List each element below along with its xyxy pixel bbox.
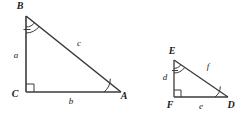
- angle-arc-b-inner: [26, 23, 35, 27]
- side-label-a: a: [14, 50, 19, 60]
- right-angle-marker-f: [174, 90, 181, 97]
- vertex-label-f: F: [166, 99, 174, 110]
- segment-ba: [26, 16, 121, 92]
- vertex-label-e: E: [168, 45, 176, 56]
- vertex-label-c: C: [12, 88, 19, 99]
- vertex-label-d: D: [226, 99, 234, 110]
- side-label-f: f: [207, 61, 211, 71]
- side-label-e: e: [199, 101, 203, 111]
- geometry-figure: B C A a b c E F: [0, 0, 243, 118]
- geometry-canvas: B C A a b c E F: [0, 0, 243, 118]
- right-angle-marker-c: [26, 84, 34, 92]
- side-label-b: b: [69, 96, 74, 106]
- angle-arc-e-inner: [174, 65, 181, 69]
- side-label-c: c: [77, 38, 81, 48]
- side-label-d: d: [163, 72, 168, 82]
- triangle-abc: B C A a b c: [12, 0, 128, 106]
- vertex-label-b: B: [16, 0, 24, 11]
- vertex-label-a: A: [120, 90, 128, 101]
- triangle-def: E F D d e f: [163, 45, 235, 111]
